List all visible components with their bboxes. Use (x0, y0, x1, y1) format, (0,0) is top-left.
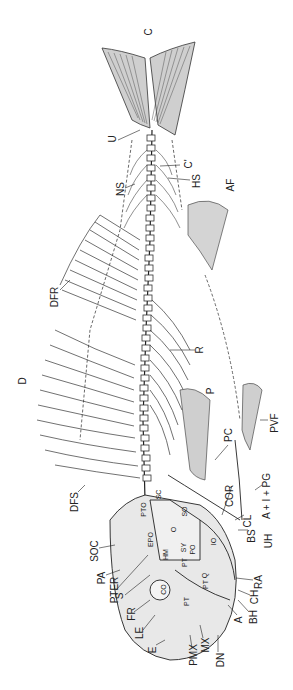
label-pelvic-fin: PVF (270, 413, 280, 432)
label-quadrate: Q (201, 573, 208, 578)
label-opercle: O (170, 527, 177, 532)
label-parietal: PA (97, 572, 107, 585)
label-pectoral-fin: P (206, 388, 216, 395)
label-interopercle: IO (210, 538, 217, 545)
label-preopercle: PO (189, 544, 196, 554)
label-urostyle: U (108, 135, 118, 142)
label-caudal-fin: C (144, 28, 154, 35)
label-dentary: DN (216, 653, 226, 667)
label-posttemporal: PTO (140, 502, 147, 516)
label-maxilla: MX (201, 638, 211, 653)
label-symplectic: SY (180, 543, 187, 552)
label-branchiostegals: BS (247, 529, 257, 542)
skull (110, 495, 236, 660)
label-dorsal-fin-rays: DFR (50, 287, 60, 308)
label-ribs: R (195, 346, 205, 353)
label-basihyal: BH (249, 610, 259, 624)
label-palatine: PT (183, 597, 190, 606)
spiny-dorsal-fin (37, 330, 140, 478)
pectoral-fin (180, 389, 210, 480)
label-ectopterygoid: PT (202, 580, 209, 589)
label-hyomandibular: HM (162, 549, 169, 560)
label-epiotic: EPO (147, 532, 154, 547)
label-sphenotic: S (115, 593, 125, 600)
label-a-i-pg: A + I + PG (262, 473, 272, 519)
fish-skeleton-drawing (0, 0, 293, 690)
label-cleithrum: CL (243, 515, 253, 528)
label-lateral-ethmoid: LE (135, 627, 145, 639)
label-angular: A (234, 617, 244, 624)
label-dorsal-fin: D (18, 377, 28, 384)
label-pc: PC (224, 428, 234, 442)
label-anal-fin: AF (226, 179, 236, 192)
label-supraoccipital: SOC (90, 540, 100, 562)
pelvic-fin (242, 383, 262, 450)
label-neural-spine: NS (116, 182, 126, 196)
label-dorsal-fin-spines: DFS (70, 492, 80, 512)
fish-skeleton-figure: C U C' HS NS AF DFR R D P PVF PC DFS COR… (0, 0, 293, 690)
label-pterygoid: PT (181, 558, 188, 567)
label-coracoid: COR (225, 485, 235, 507)
soft-dorsal-fin (60, 215, 140, 320)
label-caudal-vertebra: C' (184, 159, 194, 168)
label-subopercle: SO (181, 506, 188, 516)
label-haemal-spine: HS (192, 174, 202, 188)
label-ceratohyal: CH (250, 590, 260, 604)
label-frontal: FR (127, 607, 137, 620)
label-premaxilla: PMX (189, 644, 199, 666)
ribs (150, 300, 190, 455)
anal-fin (188, 201, 228, 270)
label-ethmoid: E (148, 647, 158, 654)
label-urohyal: UH (264, 534, 274, 548)
label-circumorbital: CO (160, 584, 167, 595)
label-retroarticular: RA (254, 575, 264, 589)
label-supracleithrum: SC (155, 490, 162, 500)
